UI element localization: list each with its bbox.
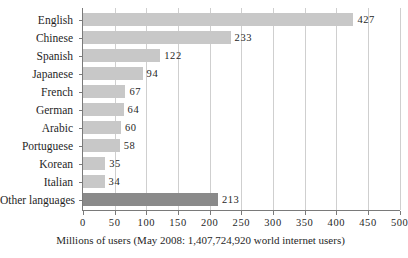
bar-row: 427: [83, 11, 400, 29]
category-axis-label: Arabic: [0, 119, 78, 137]
bar-row: 94: [83, 65, 400, 83]
x-axis-tick-label: 250: [233, 217, 251, 228]
bar-row: 233: [83, 29, 400, 47]
category-axis-label: Other languages: [0, 191, 78, 209]
x-axis-tick: [241, 211, 242, 215]
category-axis-label: Japanese: [0, 65, 78, 83]
x-axis-tick: [178, 211, 179, 215]
bar: [83, 103, 124, 116]
category-axis: EnglishChineseSpanishJapaneseFrenchGerma…: [0, 11, 78, 209]
x-axis-tick-label: 400: [328, 217, 346, 228]
bar-value-label: 67: [129, 85, 141, 98]
bar: [83, 139, 120, 152]
x-axis-tick: [115, 211, 116, 215]
x-axis-tick-label: 350: [296, 217, 314, 228]
bar: [83, 67, 143, 80]
bar: [83, 157, 105, 170]
x-axis-tick: [400, 211, 401, 215]
x-axis-tick-label: 500: [391, 217, 408, 228]
category-axis-label: English: [0, 11, 78, 29]
bar-value-label: 60: [125, 121, 137, 134]
x-axis-caption: Millions of users (May 2008: 1,407,724,9…: [0, 234, 401, 246]
x-axis-tick: [210, 211, 211, 215]
x-axis-tick-label: 200: [201, 217, 219, 228]
x-axis-tick: [305, 211, 306, 215]
bar-value-label: 427: [357, 13, 375, 26]
bar-row: 122: [83, 47, 400, 65]
category-axis-label: Chinese: [0, 29, 78, 47]
bar-value-label: 122: [164, 49, 182, 62]
category-axis-label: French: [0, 83, 78, 101]
bar-row: 35: [83, 155, 400, 173]
category-axis-label: Italian: [0, 173, 78, 191]
x-axis-tick-label: 100: [138, 217, 156, 228]
category-axis-label: Korean: [0, 155, 78, 173]
bar-row: 60: [83, 119, 400, 137]
category-axis-label: Spanish: [0, 47, 78, 65]
bar-value-label: 34: [109, 175, 121, 188]
bar: [83, 31, 231, 44]
bar-row: 58: [83, 137, 400, 155]
x-axis-tick: [368, 211, 369, 215]
category-axis-label: German: [0, 101, 78, 119]
bar-value-label: 58: [124, 139, 136, 152]
bar-value-label: 94: [147, 67, 159, 80]
bar: [83, 49, 160, 62]
bar-row: 34: [83, 173, 400, 191]
bar: [83, 85, 125, 98]
x-axis-tick-label: 300: [264, 217, 282, 228]
bar-value-label: 35: [109, 157, 121, 170]
bar-row: 67: [83, 83, 400, 101]
x-axis-tick: [336, 211, 337, 215]
plot-area: 0501001502002503003504004505004272331229…: [83, 11, 400, 210]
bar-value-label: 213: [222, 193, 240, 206]
bar-row: 64: [83, 101, 400, 119]
x-axis-tick-label: 150: [169, 217, 187, 228]
bar: [83, 13, 353, 26]
bar-value-label: 64: [128, 103, 140, 116]
category-axis-label: Portuguese: [0, 137, 78, 155]
x-axis-tick-label: 450: [359, 217, 377, 228]
x-axis-tick-label: 50: [109, 217, 121, 228]
x-axis-tick: [146, 211, 147, 215]
bar-value-label: 233: [235, 31, 253, 44]
x-axis-tick: [273, 211, 274, 215]
bar: [83, 175, 105, 188]
x-axis-tick: [83, 211, 84, 215]
bar-row: 213: [83, 191, 400, 209]
x-axis-tick-label: 0: [80, 217, 86, 228]
bar: [83, 193, 218, 206]
bar: [83, 121, 121, 134]
